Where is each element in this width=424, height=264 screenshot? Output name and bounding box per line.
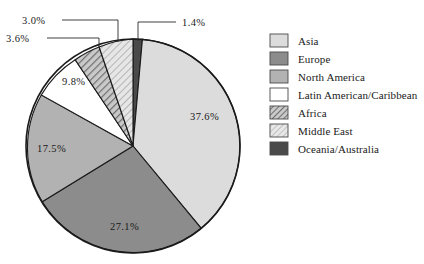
legend-item-africa[interactable]: Africa	[270, 106, 327, 119]
pie-chart-svg: 37.6% 27.1% 17.5% 9.8% 3.6% 3.0% 1.4% As…	[0, 0, 424, 264]
legend-label-europe: Europe	[298, 53, 330, 65]
legend-item-oceania-australia[interactable]: Oceania/Australia	[270, 142, 379, 155]
pct-label-europe: 27.1%	[110, 221, 139, 232]
legend-item-middle-east[interactable]: Middle East	[270, 124, 353, 137]
legend-label-latin-american-caribbean: Latin American/Caribbean	[298, 89, 418, 101]
pie-chart-figure: 37.6% 27.1% 17.5% 9.8% 3.6% 3.0% 1.4% As…	[0, 0, 424, 264]
pct-label-oceania-australia: 1.4%	[182, 17, 205, 28]
legend-item-asia[interactable]: Asia	[270, 34, 319, 47]
legend-swatch-middle-east	[270, 124, 288, 137]
legend: Asia Europe North America Latin American…	[270, 34, 418, 155]
legend-item-latin-american-caribbean[interactable]: Latin American/Caribbean	[270, 88, 418, 101]
legend-swatch-africa	[270, 106, 288, 119]
pct-label-middle-east: 3.0%	[22, 15, 45, 26]
legend-label-asia: Asia	[298, 35, 319, 47]
legend-item-north-america[interactable]: North America	[270, 70, 365, 83]
leader-line-africa	[47, 38, 99, 47]
legend-label-africa: Africa	[298, 107, 327, 119]
legend-label-middle-east: Middle East	[298, 125, 353, 137]
pct-label-latin-american-caribbean: 9.8%	[62, 76, 85, 87]
pct-label-africa: 3.6%	[6, 33, 29, 44]
legend-item-europe[interactable]: Europe	[270, 52, 330, 65]
legend-swatch-oceania-australia	[270, 142, 288, 155]
pct-label-north-america: 17.5%	[37, 143, 66, 154]
legend-label-oceania-australia: Oceania/Australia	[298, 143, 379, 155]
legend-swatch-north-america	[270, 70, 288, 83]
legend-swatch-asia	[270, 34, 288, 47]
legend-swatch-europe	[270, 52, 288, 65]
pct-label-asia: 37.6%	[190, 111, 219, 122]
legend-swatch-latin-american-caribbean	[270, 88, 288, 101]
legend-label-north-america: North America	[298, 71, 365, 83]
leader-line-middle-east	[62, 20, 118, 42]
leader-line-oceania	[138, 22, 176, 41]
